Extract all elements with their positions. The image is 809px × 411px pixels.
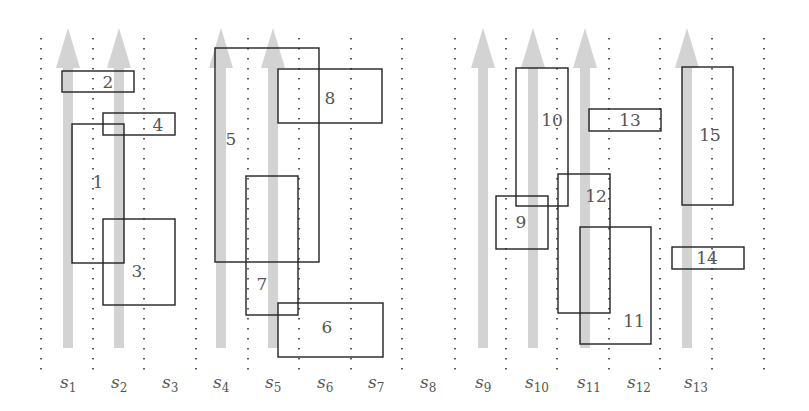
slot-labels: s1s2s3s4s5s6s7s8s9s10s11s12s13 xyxy=(60,372,708,395)
rect-label: 6 xyxy=(322,317,333,337)
slot-label-s5: s5 xyxy=(265,372,281,395)
slot-separator-lines xyxy=(41,38,764,370)
rect-label: 2 xyxy=(103,72,114,92)
interval-rectangles: 123456789101112131415 xyxy=(62,48,744,357)
rect-label: 5 xyxy=(226,129,237,149)
slot-label-s12: s12 xyxy=(627,372,651,395)
interval-rect-11: 11 xyxy=(580,227,651,344)
interval-diagram: 123456789101112131415 s1s2s3s4s5s6s7s8s9… xyxy=(0,0,809,411)
arrow-icon xyxy=(209,28,233,348)
rect-label: 11 xyxy=(623,311,645,331)
interval-rect-9: 9 xyxy=(496,196,548,249)
slot-label-s10: s10 xyxy=(525,372,549,395)
rect-label: 9 xyxy=(516,212,527,232)
interval-rect-6: 6 xyxy=(278,303,383,357)
slot-label-s9: s9 xyxy=(475,372,491,395)
slot-label-s1: s1 xyxy=(60,372,76,395)
rect-label: 12 xyxy=(585,186,607,206)
interval-rect-10: 10 xyxy=(516,68,568,206)
slot-label-s8: s8 xyxy=(420,372,436,395)
arrow-icon xyxy=(261,28,285,348)
arrow-icon xyxy=(675,28,699,348)
interval-rect-5: 5 xyxy=(215,48,319,262)
arrow-icon xyxy=(471,28,495,348)
rect-label: 13 xyxy=(619,110,641,130)
rect-label: 8 xyxy=(325,88,336,108)
rect-label: 10 xyxy=(541,110,563,130)
rect-label: 1 xyxy=(93,172,104,192)
arrow-icon xyxy=(521,28,545,348)
rect-label: 3 xyxy=(132,261,143,281)
slot-label-s6: s6 xyxy=(317,372,333,395)
rect-label: 7 xyxy=(257,274,268,294)
slot-label-s4: s4 xyxy=(213,372,230,395)
rect-label: 4 xyxy=(153,115,164,135)
slot-label-s13: s13 xyxy=(684,372,708,395)
interval-rect-13: 13 xyxy=(589,109,661,131)
slot-label-s2: s2 xyxy=(111,372,127,395)
slot-label-s7: s7 xyxy=(368,372,384,395)
rect-label: 14 xyxy=(696,248,718,268)
interval-rect-3: 3 xyxy=(103,219,175,305)
interval-rect-8: 8 xyxy=(278,69,382,123)
arrow-icon xyxy=(56,28,80,348)
slot-label-s3: s3 xyxy=(162,372,178,395)
slot-label-s11: s11 xyxy=(577,372,601,395)
rect-label: 15 xyxy=(699,125,721,145)
